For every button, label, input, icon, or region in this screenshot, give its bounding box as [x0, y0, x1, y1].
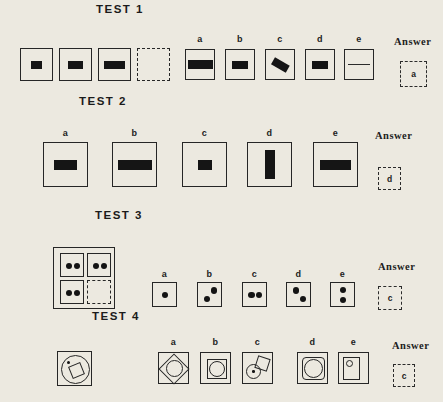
test3-stimulus-cell-top-left — [60, 253, 84, 277]
dot-figure — [300, 296, 307, 303]
test4-option-c-figure — [242, 352, 273, 384]
test2-answer-letter: d — [387, 174, 392, 184]
test3-option-e-letter: e — [330, 269, 355, 279]
test3-option-a-letter: a — [152, 269, 177, 279]
dot-figure — [248, 292, 255, 299]
test2-option-e-letter: e — [313, 128, 358, 138]
test2-option-b-letter: b — [112, 128, 157, 138]
test4-option-d-figure — [297, 352, 328, 384]
thin-line-figure — [348, 64, 370, 66]
test1-sequence-square-2 — [59, 48, 92, 81]
test2-answer-label: Answer — [375, 130, 412, 141]
test2-option-a-letter: a — [43, 128, 88, 138]
test4-option-e-figure — [338, 352, 369, 384]
dot-figure — [252, 370, 255, 373]
test1-option-c-figure — [265, 49, 295, 80]
dot-figure — [340, 297, 347, 304]
dot-figure — [74, 263, 80, 269]
small-bar-figure — [198, 160, 212, 170]
test1-option-c-letter: c — [265, 34, 295, 44]
test3-option-d-letter: d — [286, 269, 311, 279]
test3-option-c-figure — [242, 282, 267, 307]
test1-option-e-letter: e — [344, 34, 374, 44]
wide-bar-figure — [118, 160, 152, 170]
test1-option-a-figure — [185, 49, 215, 80]
test3-title: TEST 3 — [95, 209, 143, 221]
test4-answer-letter: c — [402, 371, 407, 381]
test4-answer-label: Answer — [392, 340, 429, 351]
test1-option-a-letter: a — [185, 34, 215, 44]
dot-figure — [162, 292, 169, 299]
test1-sequence-square-3 — [98, 48, 131, 81]
test3-stimulus-frame — [53, 247, 115, 309]
test3-option-c-letter: c — [242, 269, 267, 279]
medium-bar-figure — [68, 61, 83, 69]
test2-option-c-letter: c — [182, 128, 227, 138]
test4-stimulus-figure — [57, 351, 92, 386]
circle-figure — [209, 361, 225, 377]
test4-option-e-letter: e — [338, 337, 369, 347]
test2-option-b-figure — [112, 142, 157, 187]
small-circle-figure — [346, 360, 354, 368]
test1-answer-letter: a — [411, 69, 416, 79]
tilted-bar-figure — [271, 57, 289, 72]
test3-stimulus-blank-cell — [87, 280, 111, 304]
circle-figure — [304, 359, 323, 378]
vertical-bar-figure — [265, 150, 275, 179]
dot-figure — [211, 287, 218, 294]
test4-option-a-letter: a — [158, 337, 189, 347]
test4-title: TEST 4 — [92, 310, 140, 322]
test4-option-d-letter: d — [297, 337, 328, 347]
test1-option-b-letter: b — [225, 34, 255, 44]
test4-answer-box: c — [393, 364, 415, 387]
test2-option-c-figure — [182, 142, 227, 187]
test3-stimulus-cell-bottom-left — [60, 280, 84, 304]
test3-answer-label: Answer — [378, 261, 415, 272]
small-bar-figure — [31, 61, 42, 69]
dot-figure — [74, 290, 80, 296]
dot-figure — [204, 296, 211, 303]
test1-title: TEST 1 — [96, 3, 144, 15]
dot-figure — [340, 287, 347, 294]
test4-option-a-figure — [158, 352, 189, 384]
dot-figure — [67, 361, 70, 364]
test2-answer-box: d — [378, 167, 401, 190]
wide-bar-figure — [320, 160, 351, 170]
test3-option-b-letter: b — [197, 269, 222, 279]
test3-option-a-figure — [152, 282, 177, 307]
dot-figure — [101, 263, 107, 269]
test3-answer-letter: c — [388, 293, 393, 303]
test1-option-d-letter: d — [305, 34, 335, 44]
test-sheet: TEST 1 a b c d e Answer a TEST 2 a b c d… — [0, 0, 443, 402]
test4-option-c-letter: c — [242, 337, 273, 347]
test2-option-e-figure — [313, 142, 358, 187]
test1-sequence-square-1 — [20, 48, 53, 81]
test1-option-b-figure — [225, 49, 255, 80]
test2-title: TEST 2 — [79, 95, 127, 107]
test3-stimulus-cell-top-right — [87, 253, 111, 277]
test4-option-b-letter: b — [200, 337, 231, 347]
dot-figure — [66, 263, 72, 269]
test2-option-a-figure — [43, 142, 88, 187]
large-bar-figure — [104, 61, 125, 69]
dot-figure — [66, 290, 72, 296]
test3-answer-box: c — [378, 286, 402, 310]
test1-option-d-figure — [305, 49, 335, 80]
test3-option-b-figure — [197, 282, 222, 307]
extra-wide-bar-figure — [188, 60, 213, 69]
dot-figure — [93, 263, 99, 269]
medium-bar-figure — [232, 61, 248, 69]
test1-answer-label: Answer — [394, 36, 431, 47]
test1-answer-box: a — [400, 61, 427, 87]
test2-option-d-letter: d — [247, 128, 292, 138]
test3-option-d-figure — [286, 282, 311, 307]
test4-option-b-figure — [200, 352, 231, 384]
medium-bar-figure — [54, 160, 77, 170]
test1-option-e-figure — [344, 49, 374, 80]
test2-option-d-figure — [247, 142, 292, 187]
medium-bar-figure — [312, 61, 328, 69]
dot-figure — [293, 287, 300, 294]
dot-figure — [256, 292, 263, 299]
test1-sequence-blank-square — [137, 48, 170, 81]
test3-option-e-figure — [330, 282, 355, 307]
